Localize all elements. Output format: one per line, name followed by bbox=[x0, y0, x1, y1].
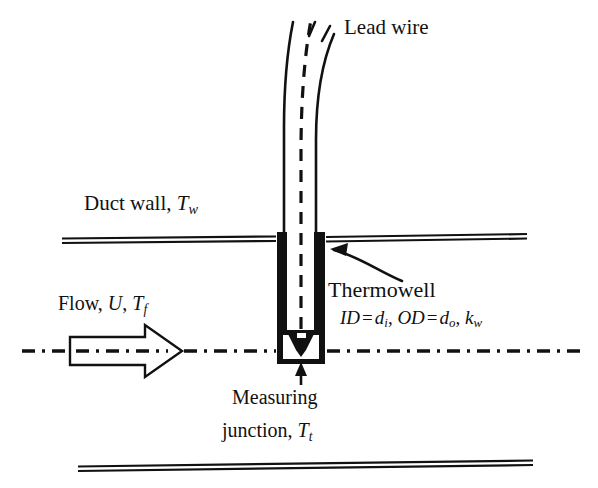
flow-label: Flow, U, Tf bbox=[58, 292, 147, 317]
flow-arrow bbox=[70, 325, 182, 377]
thermowell-diagram: Lead wire Duct wall, Tw Flow, U, Tf Ther… bbox=[0, 0, 598, 488]
measuring-text: Measuring bbox=[232, 386, 318, 408]
inner-diameter-value: d bbox=[375, 307, 385, 328]
flow-temp-subscript: f bbox=[143, 302, 147, 317]
dimension-comma-2: , bbox=[456, 307, 466, 328]
thermowell-callout-arrow bbox=[330, 243, 402, 281]
lead-wire-text: Lead wire bbox=[344, 15, 429, 39]
duct-wall-text: Duct wall, bbox=[84, 191, 177, 215]
thermowell-tube-upper bbox=[284, 22, 334, 238]
lead-wire-label: Lead wire bbox=[344, 16, 429, 40]
equals-sign-2: = bbox=[425, 307, 440, 328]
upper-duct-wall-right bbox=[326, 234, 527, 242]
junction-callout-arrow bbox=[295, 362, 307, 385]
flow-temp-symbol: T bbox=[132, 292, 143, 314]
conductivity-subscript: w bbox=[473, 315, 482, 330]
thermowell-label: Thermowell bbox=[328, 278, 436, 303]
measuring-label: Measuring bbox=[232, 386, 318, 408]
flow-text: Flow, bbox=[58, 292, 108, 314]
duct-wall-temp-symbol: T bbox=[177, 191, 189, 215]
junction-label: junction, Tt bbox=[222, 419, 312, 444]
duct-wall-label: Duct wall, Tw bbox=[84, 192, 198, 217]
thermocouple-dashed-line bbox=[301, 20, 311, 350]
thermowell-dimensions-label: ID=di, OD=do, kw bbox=[340, 307, 482, 331]
thermowell-text: Thermowell bbox=[328, 277, 436, 302]
lower-duct-wall bbox=[78, 461, 533, 472]
junction-text: junction, bbox=[222, 419, 298, 441]
inner-diameter-symbol: ID bbox=[340, 307, 360, 328]
duct-wall-temp-subscript: w bbox=[188, 201, 198, 217]
equals-sign-1: = bbox=[360, 307, 375, 328]
junction-temp-subscript: t bbox=[309, 429, 313, 444]
outer-diameter-value: d bbox=[440, 307, 450, 328]
lead-wire-tick-marks bbox=[309, 22, 330, 41]
junction-temp-symbol: T bbox=[298, 419, 309, 441]
flow-comma: , bbox=[122, 292, 132, 314]
diagram-canvas bbox=[0, 0, 598, 488]
flow-velocity-symbol: U bbox=[108, 292, 122, 314]
upper-duct-wall-left bbox=[62, 237, 276, 244]
outer-diameter-symbol: OD bbox=[397, 307, 424, 328]
dimension-comma-1: , bbox=[388, 307, 398, 328]
